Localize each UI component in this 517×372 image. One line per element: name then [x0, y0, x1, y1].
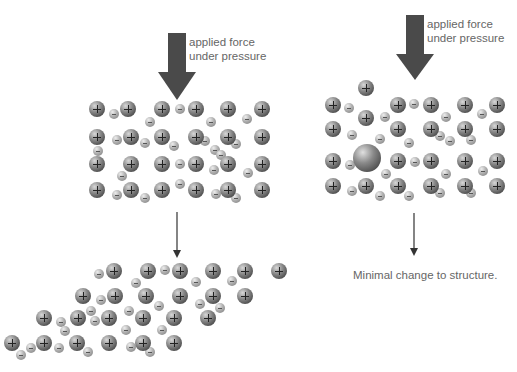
positive-ion-icon: [423, 153, 439, 169]
negative-ion-icon: [145, 117, 155, 127]
negative-ion-icon: [243, 168, 253, 178]
negative-ion-icon: [96, 295, 106, 305]
positive-ion-icon: [358, 80, 374, 96]
left-force-line2: under pressure: [189, 49, 266, 63]
negative-ion-icon: [380, 112, 390, 122]
positive-ion-icon: [36, 335, 52, 351]
negative-ion-icon: [347, 186, 357, 196]
negative-ion-icon: [478, 166, 488, 176]
positive-ion-icon: [423, 97, 439, 113]
positive-ion-icon: [69, 335, 85, 351]
negative-ion-icon: [175, 104, 185, 114]
positive-ion-icon: [188, 101, 204, 117]
negative-ion-icon: [160, 265, 170, 275]
right-force-line2: under pressure: [427, 31, 504, 45]
positive-ion-icon: [457, 178, 473, 194]
negative-ion-icon: [109, 109, 119, 119]
positive-ion-icon: [101, 335, 117, 351]
negative-ion-icon: [242, 114, 252, 124]
negative-ion-icon: [410, 157, 420, 167]
negative-ion-icon: [93, 146, 103, 156]
negative-ion-icon: [191, 277, 201, 287]
positive-ion-icon: [489, 153, 505, 169]
positive-ion-icon: [75, 288, 91, 304]
positive-ion-icon: [107, 288, 123, 304]
positive-ion-icon: [89, 182, 105, 198]
positive-ion-icon: [135, 335, 151, 351]
positive-ion-icon: [325, 97, 341, 113]
negative-ion-icon: [409, 99, 419, 109]
left-result-arrow: [173, 212, 181, 258]
negative-ion-icon: [215, 303, 225, 313]
positive-ion-icon: [457, 153, 473, 169]
positive-ion-icon: [123, 129, 139, 145]
negative-ion-icon: [131, 278, 141, 288]
right-force-label: applied force under pressure: [427, 17, 504, 45]
positive-ion-icon: [254, 101, 270, 117]
positive-ion-icon: [188, 156, 204, 172]
positive-ion-icon: [36, 310, 52, 326]
negative-ion-icon: [381, 169, 391, 179]
positive-ion-icon: [200, 310, 216, 326]
positive-ion-icon: [358, 178, 374, 194]
negative-ion-icon: [441, 169, 451, 179]
positive-ion-icon: [220, 182, 236, 198]
positive-ion-icon: [220, 101, 236, 117]
negative-ion-icon: [90, 316, 100, 326]
right-result-arrow: [410, 213, 418, 256]
positive-ion-icon: [135, 310, 151, 326]
positive-ion-icon: [166, 335, 182, 351]
negative-ion-icon: [175, 179, 185, 189]
positive-ion-icon: [106, 263, 122, 279]
positive-ion-icon: [489, 97, 505, 113]
negative-ion-icon: [26, 343, 36, 353]
negative-ion-icon: [404, 138, 414, 148]
positive-ion-icon: [457, 97, 473, 113]
positive-ion-icon: [254, 129, 270, 145]
positive-ion-icon: [154, 156, 170, 172]
negative-ion-icon: [375, 134, 385, 144]
positive-ion-icon: [166, 310, 182, 326]
positive-ion-icon: [457, 121, 473, 137]
negative-ion-icon: [375, 191, 385, 201]
negative-ion-icon: [445, 136, 455, 146]
positive-ion-icon: [390, 153, 406, 169]
negative-ion-icon: [140, 138, 150, 148]
negative-ion-icon: [344, 103, 354, 113]
positive-ion-icon: [220, 156, 236, 172]
positive-ion-icon: [89, 156, 105, 172]
positive-ion-icon: [325, 178, 341, 194]
positive-ion-icon: [390, 121, 406, 137]
positive-ion-icon: [325, 153, 341, 169]
left-force-label: applied force under pressure: [189, 35, 266, 63]
negative-ion-icon: [206, 117, 216, 127]
negative-ion-icon: [121, 325, 131, 335]
positive-ion-icon: [89, 101, 105, 117]
positive-ion-icon: [271, 263, 287, 279]
positive-ion-icon: [123, 182, 139, 198]
positive-ion-icon: [325, 121, 341, 137]
left-force-line1: applied force: [189, 35, 266, 49]
negative-ion-icon: [157, 325, 167, 335]
negative-ion-icon: [117, 171, 127, 181]
positive-ion-icon: [138, 288, 154, 304]
negative-ion-icon: [112, 190, 122, 200]
positive-ion-icon: [123, 156, 139, 172]
negative-ion-icon: [54, 343, 64, 353]
positive-ion-icon: [89, 129, 105, 145]
negative-ion-icon: [477, 109, 487, 119]
positive-ion-icon: [205, 263, 221, 279]
positive-ion-icon: [390, 97, 406, 113]
positive-ion-icon: [120, 101, 136, 117]
positive-ion-icon: [423, 178, 439, 194]
positive-ion-icon: [390, 178, 406, 194]
right-force-line1: applied force: [427, 17, 504, 31]
positive-ion-icon: [358, 110, 374, 126]
positive-ion-icon: [140, 263, 156, 279]
positive-ion-icon: [4, 335, 20, 351]
positive-ion-icon: [188, 129, 204, 145]
negative-ion-icon: [112, 135, 122, 145]
negative-ion-icon: [154, 301, 164, 311]
positive-ion-icon: [154, 182, 170, 198]
negative-ion-icon: [124, 306, 134, 316]
